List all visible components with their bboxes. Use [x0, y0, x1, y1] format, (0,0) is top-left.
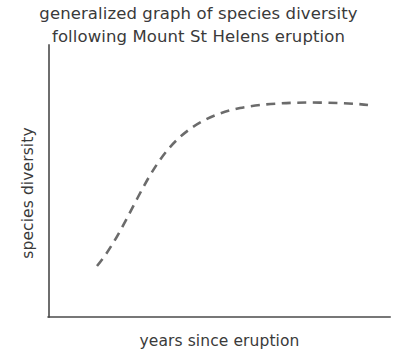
plot-area — [0, 0, 397, 358]
chart-figure: generalized graph of species diversity f… — [0, 0, 397, 358]
species-diversity-curve — [97, 103, 368, 266]
x-axis-label: years since eruption — [49, 331, 390, 351]
y-axis-label: species diversity — [19, 93, 37, 293]
